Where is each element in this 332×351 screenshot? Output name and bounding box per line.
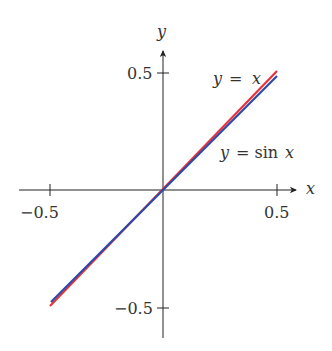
x-tick-label-neg: −0.5	[20, 203, 59, 222]
annotation-y: y	[212, 69, 223, 88]
annotation-sin-x: x	[285, 143, 294, 162]
annotation-sin-eq: = sin	[236, 143, 278, 162]
annotation-y-equals-sin-x: y = sin x	[219, 143, 294, 162]
plot-canvas: y x −0.5 0.5 0.5 −0.5 y = x y = sin x	[0, 0, 332, 351]
y-tick-label-neg: −0.5	[114, 299, 153, 318]
y-axis-label: y	[156, 22, 167, 41]
x-axis-label: x	[306, 179, 315, 198]
annotation-sin-y: y	[219, 143, 230, 162]
annotation-y-equals-x: y = x	[212, 69, 261, 88]
annotation-eq: =	[229, 69, 242, 88]
annotation-x: x	[252, 69, 261, 88]
y-tick-label-pos: 0.5	[127, 64, 152, 83]
line-y-equals-sin-x	[51, 76, 277, 302]
x-tick-label-pos: 0.5	[264, 203, 289, 222]
